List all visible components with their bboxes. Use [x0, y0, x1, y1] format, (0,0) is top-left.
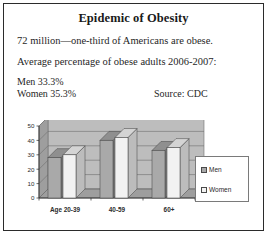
- stats-row: Men 33.3% Women 35.3% Source: CDC: [17, 76, 263, 101]
- legend-label-men: Men: [209, 166, 222, 173]
- chart-legend: Men Women: [195, 156, 249, 202]
- svg-text:40: 40: [28, 137, 35, 144]
- legend-item-women: Women: [201, 186, 231, 193]
- stat-women: Women 35.3%: [17, 88, 263, 100]
- bar-chart: 01020304050Age 20-3940-5960+ Men Women: [9, 120, 260, 226]
- legend-swatch-women-icon: [201, 187, 207, 193]
- svg-text:60+: 60+: [164, 206, 175, 213]
- statement-line-1: 72 million—one-third of Americans are ob…: [17, 35, 263, 46]
- page-title: Epidemic of Obesity: [4, 11, 263, 26]
- svg-text:0: 0: [31, 194, 35, 201]
- legend-item-men: Men: [201, 166, 222, 173]
- svg-text:40-59: 40-59: [109, 206, 126, 213]
- svg-text:10: 10: [28, 180, 35, 187]
- svg-text:50: 50: [28, 122, 35, 129]
- svg-text:30: 30: [28, 151, 35, 158]
- stat-men: Men 33.3%: [17, 76, 263, 88]
- svg-text:Age 20-39: Age 20-39: [50, 206, 81, 214]
- legend-label-women: Women: [209, 186, 231, 193]
- source-credit: Source: CDC: [154, 88, 208, 99]
- poster-frame: Epidemic of Obesity 72 million—one-third…: [3, 3, 264, 231]
- legend-swatch-men-icon: [201, 167, 207, 173]
- svg-text:20: 20: [28, 166, 35, 173]
- statement-line-2: Average percentage of obese adults 2006-…: [17, 56, 263, 67]
